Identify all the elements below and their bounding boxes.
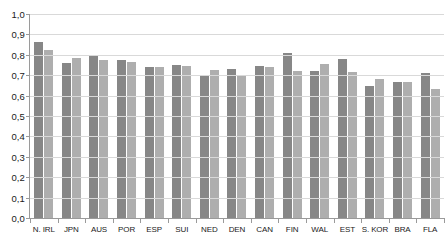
bar (431, 89, 440, 218)
x-axis-tick (444, 218, 445, 223)
bar (338, 59, 347, 218)
bar (99, 60, 108, 218)
bar (34, 42, 43, 218)
x-axis-tick (168, 218, 169, 223)
y-axis-tick (26, 55, 30, 56)
y-axis-tick-label: 0,7 (11, 70, 25, 81)
bar (320, 64, 329, 218)
gridline (30, 198, 444, 199)
gridline (30, 116, 444, 117)
x-axis-tick-label: S. KOR (361, 225, 389, 249)
bar (145, 67, 154, 218)
x-axis-tick-label: WAL (306, 225, 334, 249)
x-axis-tick (306, 218, 307, 223)
y-axis-tick (26, 14, 30, 15)
x-axis-tick (416, 218, 417, 223)
x-axis-tick-label: CAN (251, 225, 279, 249)
y-axis-tick-label: 1,0 (11, 9, 25, 20)
y-axis-tick-label: 0,1 (11, 192, 25, 203)
x-axis-tick-label: EST (334, 225, 362, 249)
x-axis-tick (251, 218, 252, 223)
bar (155, 67, 164, 218)
y-axis-tick-label: 0,5 (11, 111, 25, 122)
y-axis-tick (26, 34, 30, 35)
x-axis-tick-label: POR (113, 225, 141, 249)
x-axis-tick (389, 218, 390, 223)
x-axis-tick (334, 218, 335, 223)
x-axis-tick-label: N. IRL (30, 225, 58, 249)
x-axis-tick-label: DEN (223, 225, 251, 249)
x-axis-tick (278, 218, 279, 223)
x-axis-tick (140, 218, 141, 223)
x-axis-tick (223, 218, 224, 223)
y-axis-tick-label: 0,6 (11, 90, 25, 101)
y-axis-tick (26, 157, 30, 158)
x-axis-tick-label: JPN (58, 225, 86, 249)
y-axis-tick-label: 0,2 (11, 172, 25, 183)
bar (227, 69, 236, 218)
gridline (30, 177, 444, 178)
bar (200, 75, 209, 218)
x-axis-tick-label: NED (196, 225, 224, 249)
x-axis-tick (196, 218, 197, 223)
y-axis-tick-label: 0,3 (11, 151, 25, 162)
x-axis-tick (58, 218, 59, 223)
bar (348, 72, 357, 218)
bar (72, 58, 81, 218)
gridline (30, 14, 444, 15)
gridline (30, 136, 444, 137)
y-axis-tick (26, 177, 30, 178)
y-axis-tick (26, 116, 30, 117)
x-axis-tick-label: BRA (389, 225, 417, 249)
x-axis-tick (85, 218, 86, 223)
x-axis-tick-labels: N. IRLJPNAUSPORESPSUINEDDENCANFINWALESTS… (30, 225, 444, 249)
bar (62, 63, 71, 218)
bar (210, 70, 219, 218)
y-axis-tick (26, 136, 30, 137)
x-axis-tick (113, 218, 114, 223)
x-axis-tick (361, 218, 362, 223)
y-axis-tick-label: 0,9 (11, 29, 25, 40)
y-axis-tick-label: 0,4 (11, 131, 25, 142)
bar (255, 66, 264, 218)
gridline (30, 96, 444, 97)
x-axis-ticks (30, 218, 444, 223)
x-axis-tick-label: AUS (85, 225, 113, 249)
bar (127, 62, 136, 218)
y-axis-tick-label: 0,0 (11, 213, 25, 224)
x-axis-tick-label: FIN (278, 225, 306, 249)
gridline (30, 75, 444, 76)
y-axis-tick (26, 96, 30, 97)
bar (265, 67, 274, 218)
x-axis-tick-label: SUI (168, 225, 196, 249)
y-axis-tick-label: 0,8 (11, 49, 25, 60)
bar (237, 75, 246, 218)
bar (172, 65, 181, 218)
x-axis-tick-label: FLA (416, 225, 444, 249)
gridline (30, 55, 444, 56)
bar (182, 66, 191, 218)
y-axis-tick-labels: 1,00,90,80,70,60,50,40,30,20,10,0 (0, 0, 28, 249)
y-axis-tick (26, 75, 30, 76)
gridline (30, 34, 444, 35)
gridline (30, 157, 444, 158)
x-axis-tick (30, 218, 31, 223)
bar-chart: 1,00,90,80,70,60,50,40,30,20,10,0 N. IRL… (0, 0, 446, 249)
x-axis-tick-label: ESP (140, 225, 168, 249)
y-axis-tick (26, 198, 30, 199)
bar (293, 71, 302, 218)
plot-area (30, 14, 444, 218)
bar (117, 60, 126, 218)
bar (283, 53, 292, 218)
bar (310, 71, 319, 218)
